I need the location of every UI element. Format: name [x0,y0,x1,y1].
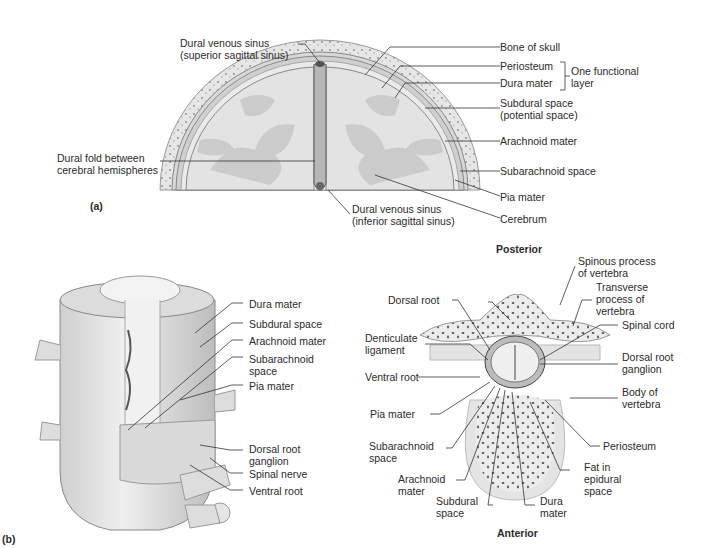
label-periosteum-a: Periosteum [500,60,553,72]
label-anterior: Anterior [497,527,538,539]
label-line: of vertebra [578,267,656,279]
label-subarachnoid-space-c: Subarachnoid space [369,440,434,464]
label-transverse-process: Transverse process of vertebra [596,281,648,317]
label-dura-mater-a: Dura mater [500,77,553,89]
label-line: epidural [584,473,621,485]
label-line: Fat in [584,461,621,473]
label-subdural-space-b: Subdural space [249,318,322,330]
label-line: space [436,507,478,519]
label-arachnoid-mater-a: Arachnoid mater [500,135,577,147]
label-spinal-cord: Spinal cord [622,319,675,331]
label-line: process of [596,293,648,305]
label-dorsal-root-c: Dorsal root [388,294,439,306]
label-dural-venous-sinus-inferior: Dural venous sinus (inferior sagittal si… [352,203,455,227]
label-dura-mater-b: Dura mater [249,298,302,310]
label-line: Body of [622,386,661,398]
label-line: Subarachnoid [369,440,434,452]
label-line: Dural fold between [57,152,158,164]
label-line: (potential space) [500,109,578,121]
label-line: Subarachnoid [249,353,314,365]
label-fat-in-epidural-space: Fat in epidural space [584,461,621,497]
label-dorsal-root-ganglion-c: Dorsal root ganglion [622,351,673,375]
label-line: Dural venous sinus [352,203,455,215]
label-pia-mater-c: Pia mater [370,408,415,420]
panel-b-tag: (b) [2,533,15,545]
spinal-cord-cutaway [35,276,243,530]
label-line: ganglion [622,363,673,375]
label-dural-venous-sinus-superior: Dural venous sinus (superior sagittal si… [180,37,289,61]
label-line: Dorsal root [249,443,300,455]
label-bone-of-skull: Bone of skull [500,41,560,53]
label-cerebrum: Cerebrum [500,213,547,225]
label-line: (superior sagittal sinus) [180,49,289,61]
label-subarachnoid-space-b: Subarachnoid space [249,353,314,377]
label-ventral-root-b: Ventral root [249,485,303,497]
label-line: vertebra [622,398,661,410]
label-dorsal-root-ganglion-b: Dorsal root ganglion [249,443,300,467]
label-line: ganglion [249,455,300,467]
label-one-functional-layer: One functional layer [571,65,639,89]
label-subarachnoid-space-a: Subarachnoid space [500,165,596,177]
label-line: vertebra [596,305,648,317]
label-pia-mater-b: Pia mater [249,380,294,392]
label-line: ligament [365,344,418,356]
label-line: Denticulate [365,332,418,344]
label-line: mater [398,485,445,497]
label-line: Dura [540,495,567,507]
label-line: Dorsal root [622,351,673,363]
label-subdural-space-c: Subdural space [436,495,478,519]
label-posterior: Posterior [496,243,542,255]
label-line: layer [571,77,639,89]
label-line: Dural venous sinus [180,37,289,49]
label-line: Subdural space [500,97,578,109]
label-line: space [584,485,621,497]
label-spinous-process: Spinous process of vertebra [578,255,656,279]
label-line: Spinous process [578,255,656,267]
label-line: space [369,452,434,464]
label-line: space [249,365,314,377]
label-dura-mater-c: Dura mater [540,495,567,519]
label-line: Transverse [596,281,648,293]
label-line: Arachnoid [398,473,445,485]
label-line: cerebral hemispheres [57,164,158,176]
label-line: mater [540,507,567,519]
label-arachnoid-mater-c: Arachnoid mater [398,473,445,497]
label-subdural-space-a: Subdural space (potential space) [500,97,578,121]
label-ventral-root-c: Ventral root [365,371,419,383]
panel-a-tag: (a) [90,200,103,212]
label-line: One functional [571,65,639,77]
label-denticulate-ligament: Denticulate ligament [365,332,418,356]
label-body-of-vertebra: Body of vertebra [622,386,661,410]
label-line: (inferior sagittal sinus) [352,215,455,227]
label-arachnoid-mater-b: Arachnoid mater [249,335,326,347]
label-periosteum-c: Periosteum [603,440,656,452]
label-dural-fold: Dural fold between cerebral hemispheres [57,152,158,176]
label-pia-mater-a: Pia mater [500,191,545,203]
label-spinal-nerve: Spinal nerve [249,468,307,480]
